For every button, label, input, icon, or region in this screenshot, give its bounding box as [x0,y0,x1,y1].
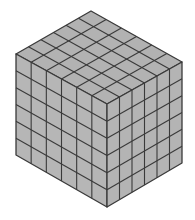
cube-diagram [0,0,195,220]
cube-figure [0,0,195,220]
